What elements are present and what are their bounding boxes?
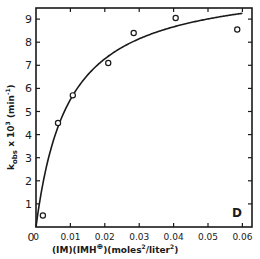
plot-frame: [36, 8, 252, 227]
data-point: [55, 120, 60, 125]
x-tick-label: 0.02: [95, 232, 115, 242]
data-point: [40, 213, 45, 218]
y-tick-label: 5: [25, 106, 32, 119]
x-axis-label: (IM)(IMH⊕)(moles2/liter2): [52, 242, 178, 255]
x-tick-label: 0.04: [164, 232, 184, 242]
x-tick-label: 0.01: [60, 232, 80, 242]
data-point: [173, 15, 178, 20]
data-point: [235, 27, 240, 32]
kobs-vs-concentration-chart: 00.010.020.030.040.050.06 0123456789 D (…: [0, 0, 260, 259]
y-axis-ticks: 0123456789: [25, 13, 252, 244]
fitted-curve: [36, 13, 242, 227]
y-tick-label: 8: [25, 36, 32, 49]
data-points: [40, 15, 240, 218]
y-tick-label: 3: [25, 152, 32, 165]
y-tick-label: 7: [25, 59, 32, 72]
y-tick-label: 6: [25, 82, 32, 95]
x-tick-label: 0.06: [232, 232, 252, 242]
panel-label: D: [232, 206, 242, 220]
y-tick-label: 4: [25, 129, 32, 142]
x-axis-ticks: 00.010.020.030.040.050.06: [33, 8, 253, 242]
data-point: [131, 30, 136, 35]
data-point: [70, 93, 75, 98]
x-tick-label: 0.05: [198, 232, 218, 242]
y-tick-label: 2: [25, 175, 32, 188]
data-point: [106, 60, 111, 65]
y-tick-label: 0: [28, 231, 35, 244]
y-axis-label: kobs x 103 (min-1): [4, 84, 19, 170]
y-tick-label: 9: [25, 13, 32, 26]
x-tick-label: 0.03: [129, 232, 149, 242]
y-tick-label: 1: [25, 198, 32, 211]
